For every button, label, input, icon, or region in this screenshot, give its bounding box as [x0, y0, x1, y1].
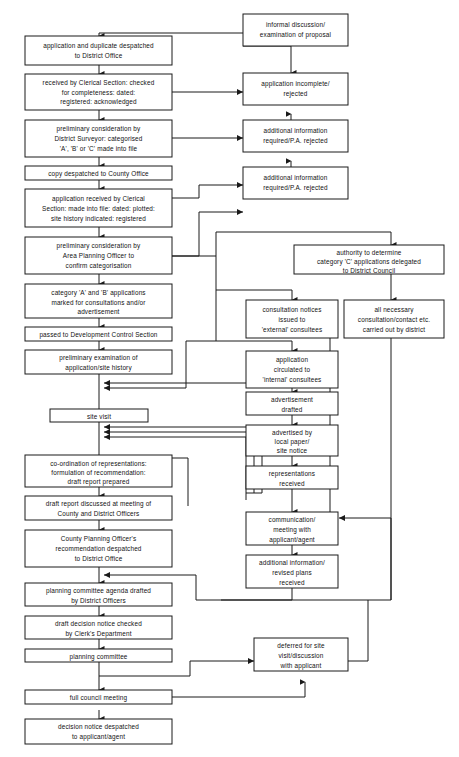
node-draft-decision-notice[interactable]: draft decision notice checked by Clerk's…	[25, 616, 172, 639]
node-decision-line-1: to applicant/agent	[72, 733, 125, 741]
node-additional-info-1[interactable]: additional information required/P.A. rej…	[243, 120, 348, 152]
node-coord-line-0: co-ordination of representations:	[50, 460, 147, 468]
node-apprec-line-0: application received by Clerical	[52, 195, 145, 203]
node-informal-discussion-line-1: examination of proposal	[260, 31, 331, 39]
node-advdraft-line-0: advertisement	[271, 396, 313, 403]
node-prelimexam-line-0: preliminary examination of	[59, 354, 138, 362]
node-communication-meeting[interactable]: communication/ meeting with applicant/ag…	[246, 512, 338, 545]
node-prelimapo-line-0: preliminary consideration by	[57, 242, 141, 250]
node-received-clerical-line-0: received by Clerical Section: checked	[43, 79, 155, 87]
node-decision-line-0: decision notice despatched	[58, 723, 139, 731]
node-comm-line-0: communication/	[269, 516, 316, 523]
node-repsrec-line-0: representations	[269, 470, 315, 478]
node-county-planning-officer[interactable]: County Planning Officer's recommendation…	[25, 530, 172, 567]
node-application-incomplete-line-1: rejected	[284, 90, 308, 98]
edge-prelimapo-to-addinfo2	[172, 212, 243, 256]
node-authority-line-0: authority to determine	[336, 249, 401, 257]
node-additional-info-2[interactable]: additional information required/P.A. rej…	[243, 167, 348, 199]
node-advlocal-line-0: advertised by	[272, 429, 313, 437]
node-additional-info-revised[interactable]: additional information/ revised plans re…	[246, 555, 338, 588]
node-application-duplicate-line-1: to District Office	[75, 52, 123, 59]
node-deferred-line-1: visit/discussion	[278, 652, 323, 659]
edge-apprec-to-addinfo2	[172, 185, 243, 198]
node-consultation-notices[interactable]: consultation notices issued to 'external…	[246, 300, 338, 338]
node-coord-line-1: formulation of recommendation:	[51, 469, 145, 476]
node-category-ab[interactable]: category 'A' and 'B' applications marked…	[25, 284, 172, 318]
node-comm-line-2: applicant/agent	[269, 536, 315, 544]
node-authority-line-2: to District Council	[343, 267, 396, 274]
node-preliminary-area-planning[interactable]: preliminary consideration by Area Planni…	[25, 237, 172, 274]
node-advertisement-drafted[interactable]: advertisement drafted	[246, 392, 338, 415]
node-advlocal-line-2: site notice	[277, 447, 308, 454]
node-addinfo1-line-1: required/P.A. rejected	[263, 137, 328, 145]
node-application-duplicate[interactable]: application and duplicate despatched to …	[25, 36, 172, 65]
node-decision-notice-despatched[interactable]: decision notice despatched to applicant/…	[25, 719, 172, 744]
node-planning-committee[interactable]: planning committee	[25, 649, 172, 662]
node-cpo-line-1: recommendation despatched	[55, 545, 141, 553]
node-advertised-local-paper[interactable]: advertised by local paper/ site notice	[246, 425, 338, 456]
node-cpo-line-0: County Planning Officer's	[61, 535, 137, 543]
node-application-incomplete-line-0: application incomplete/	[261, 80, 330, 88]
node-addinfo2-line-1: required/P.A. rejected	[263, 184, 328, 192]
node-allnecessary-line-0: all necessary	[374, 306, 414, 314]
node-copy-county-office-line-0: copy despatched to County Office	[48, 170, 149, 178]
node-appcirc-line-1: circulated to	[274, 366, 311, 373]
edge-prelimapo-to-consultnotices	[216, 256, 292, 300]
node-authority-determine[interactable]: authority to determine category 'C' appl…	[294, 245, 444, 274]
node-passed-development-control[interactable]: passed to Development Control Section	[25, 327, 172, 341]
node-deferred-site-visit[interactable]: deferred for site visit/discussion with …	[254, 638, 348, 671]
node-allnecessary-line-1: consultation/contact etc.	[358, 316, 430, 323]
node-prelimds-line-1: District Surveyor: categorised	[55, 135, 143, 143]
node-received-clerical[interactable]: received by Clerical Section: checked fo…	[25, 74, 172, 110]
node-informal-discussion[interactable]: informal discussion/ examination of prop…	[243, 14, 348, 46]
node-representations-received[interactable]: representations received	[246, 466, 338, 489]
node-apprec-line-2: site history indicated: registered	[51, 215, 146, 223]
node-deferred-line-2: with applicant	[280, 662, 322, 670]
node-application-duplicate-line-0: application and duplicate despatched	[43, 42, 154, 50]
edge-fullcouncil-to-deferred	[172, 682, 305, 697]
node-coord-line-2: draft report prepared	[68, 478, 130, 486]
node-apprec-line-1: Section: made into file: dated: plotted:	[42, 205, 155, 213]
node-addrev-line-2: received	[279, 579, 305, 586]
node-categoryab-line-1: marked for consultations and/or	[51, 299, 146, 306]
node-full-council-meeting[interactable]: full council meeting	[25, 690, 172, 704]
node-received-clerical-line-1: for completeness: dated:	[62, 89, 136, 97]
nodes-layer: informal discussion/ examination of prop…	[25, 14, 444, 744]
node-repsrec-line-1: received	[279, 480, 305, 487]
node-addrev-line-0: additional information/	[259, 559, 325, 566]
node-addrev-line-1: revised plans	[272, 569, 312, 577]
flowchart-svg: informal discussion/ examination of prop…	[0, 0, 459, 757]
node-application-circulated[interactable]: application circulated to 'internal' con…	[246, 351, 338, 388]
node-coordination-representations[interactable]: co-ordination of representations: formul…	[25, 455, 172, 487]
node-preliminary-district-surveyor[interactable]: preliminary consideration by District Su…	[25, 120, 172, 157]
node-addinfo2-line-0: additional information	[263, 174, 327, 181]
node-cpo-line-2: to District Office	[75, 555, 123, 562]
node-application-incomplete[interactable]: application incomplete/ rejected	[243, 73, 348, 105]
node-comm-line-1: meeting with	[273, 526, 311, 534]
node-copy-county-office[interactable]: copy despatched to County Office	[25, 166, 172, 180]
node-preliminary-examination[interactable]: preliminary examination of application/s…	[25, 350, 172, 374]
node-addinfo1-line-0: additional information	[263, 127, 327, 134]
node-planning-committee-agenda[interactable]: planning committee agenda drafted by Dis…	[25, 583, 172, 606]
node-agenda-line-1: by District Officers	[71, 597, 126, 605]
node-draftdecision-line-1: by Clerk's Department	[65, 630, 131, 638]
node-sitevisit-line-0: site visit	[87, 413, 111, 420]
node-prelimapo-line-1: Area Planning Officer to	[63, 252, 135, 260]
node-application-received-clerical[interactable]: application received by Clerical Section…	[25, 189, 172, 227]
node-informal-discussion-line-0: informal discussion/	[266, 21, 325, 28]
node-advlocal-line-1: local paper/	[275, 438, 310, 446]
node-consultnotices-line-0: consultation notices	[262, 306, 321, 313]
edge-deferred-up	[348, 600, 368, 661]
node-advdraft-line-1: drafted	[282, 406, 303, 413]
node-appcirc-line-0: application	[276, 356, 309, 364]
node-prelimds-line-0: preliminary consideration by	[57, 125, 141, 133]
node-received-clerical-line-2: registered: acknowledged	[60, 98, 137, 106]
node-draft-report-discussed[interactable]: draft report discussed at meeting of Cou…	[25, 496, 172, 520]
node-all-necessary-consultation[interactable]: all necessary consultation/contact etc. …	[344, 300, 444, 338]
node-prelimapo-line-2: confirm categorisation	[66, 262, 132, 270]
edge-pc-to-deferred	[99, 661, 254, 676]
node-site-visit[interactable]: site visit	[50, 409, 148, 422]
node-consultnotices-line-1: issued to	[279, 316, 306, 323]
node-categoryab-line-0: category 'A' and 'B' applications	[51, 289, 145, 297]
node-appcirc-line-2: 'internal' consultees	[263, 376, 322, 383]
